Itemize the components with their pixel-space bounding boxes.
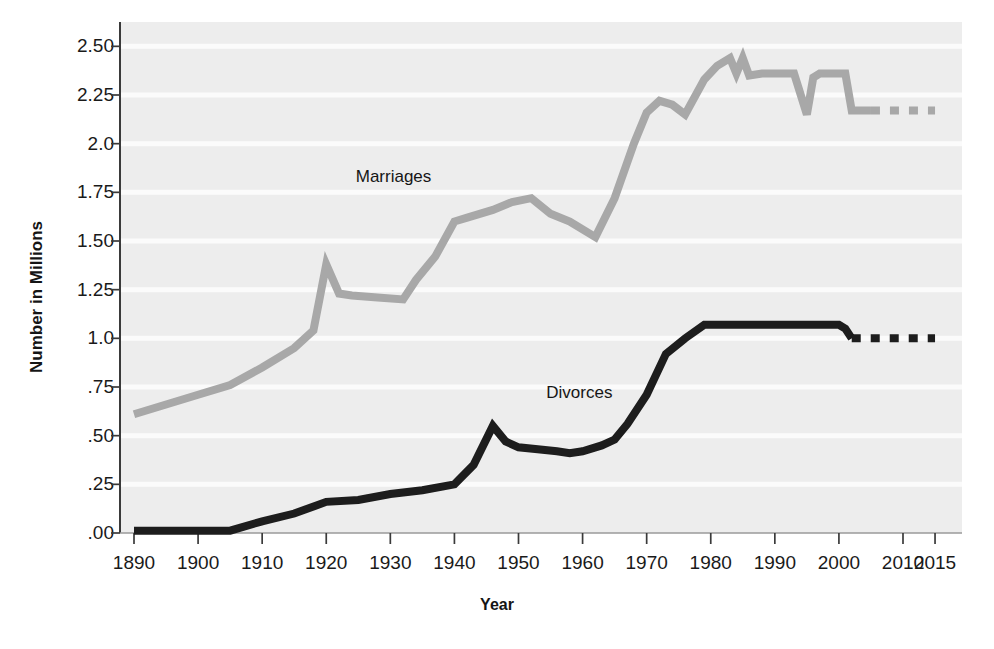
marriages-divorces-line-chart: Number in Millions .00.25.50.751.01.251.… — [0, 0, 994, 649]
x-axis-tick-label: 2000 — [818, 552, 860, 574]
x-axis-tick-label: 1890 — [113, 552, 155, 574]
x-axis-tick-label: 1980 — [690, 552, 732, 574]
series-annotation-divorces: Divorces — [546, 383, 612, 403]
x-axis-tick-label: 1910 — [241, 552, 283, 574]
x-axis-tick-label: 1920 — [305, 552, 347, 574]
series-annotation-marriages: Marriages — [356, 167, 432, 187]
x-axis-title: Year — [0, 596, 994, 614]
plot-background — [120, 22, 962, 533]
x-axis-tick-label: 1940 — [433, 552, 475, 574]
x-axis-tick-label: 1990 — [754, 552, 796, 574]
x-axis-tick-label: 2015 — [914, 552, 956, 574]
x-axis-tick-label: 1930 — [369, 552, 411, 574]
x-axis-tick-label: 1900 — [177, 552, 219, 574]
x-axis-tick-label: 1950 — [497, 552, 539, 574]
x-axis-tick-label: 1970 — [626, 552, 668, 574]
x-axis-tick-label: 1960 — [561, 552, 603, 574]
